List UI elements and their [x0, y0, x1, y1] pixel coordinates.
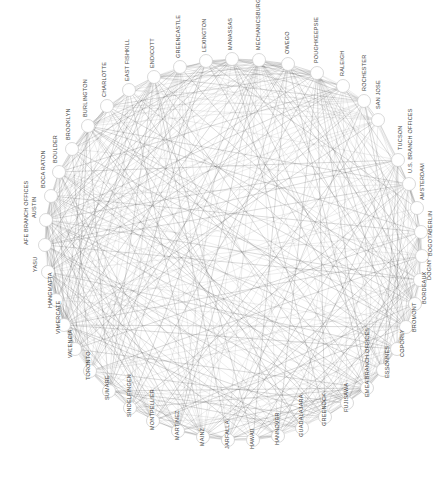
- edge: [45, 245, 278, 436]
- node-label: BURLINGTON: [82, 79, 88, 117]
- node-label: SUMARE: [104, 375, 110, 400]
- node-tucson: [392, 154, 405, 167]
- node-poughkeepsie: [311, 67, 324, 80]
- node-label: GUADALAJARA: [298, 394, 304, 437]
- node-u-s-branch-offices: [403, 178, 416, 191]
- edge: [64, 325, 153, 421]
- node-east-fishkill: [123, 84, 136, 97]
- node-label: SINDELFINGEN: [126, 374, 132, 417]
- edge: [178, 67, 180, 431]
- edge: [259, 60, 278, 436]
- edge: [48, 120, 378, 272]
- node-label: YASU: [32, 257, 38, 272]
- node-mechanicsburg: [253, 54, 266, 67]
- node-label: COPORLY: [399, 329, 405, 357]
- node-label: EAST FISHKILL: [124, 39, 130, 81]
- edge: [203, 60, 259, 437]
- node-label: RALEIGH: [339, 50, 345, 76]
- network-diagram: MECHANICSBURGOWEGOPOUGHKEEPSIERALEIGHROC…: [0, 0, 447, 492]
- node-label: BROOKLYN: [65, 108, 71, 140]
- node-label: MARTINEZ: [174, 410, 180, 440]
- edge: [228, 327, 406, 440]
- edge: [51, 73, 317, 196]
- node-burlington: [82, 120, 95, 133]
- node-label: CHARLOTTE: [101, 62, 107, 97]
- node-label: BROMONT: [411, 302, 417, 332]
- edge: [90, 371, 228, 440]
- node-amsterdam: [411, 202, 424, 215]
- node-raleigh: [337, 80, 350, 93]
- node-label: HAWAII: [249, 428, 255, 449]
- edge: [46, 160, 398, 220]
- node-afe-branch-offices: [39, 239, 52, 252]
- node-label: ESSONNES: [384, 346, 390, 378]
- node-berlin: [415, 226, 428, 239]
- node-boulder: [53, 166, 66, 179]
- node-boca-raton: [45, 190, 58, 203]
- edge: [56, 67, 180, 300]
- edge: [46, 59, 232, 220]
- node-label: POUGHKEEPSIE: [313, 17, 319, 63]
- node-endicott: [148, 71, 161, 84]
- edge: [109, 391, 325, 417]
- node-label: VALENCIA: [67, 329, 73, 358]
- edge: [64, 256, 422, 325]
- node-label: MECHANICSBURG: [255, 0, 261, 50]
- node-label: HANNOVER: [274, 412, 280, 445]
- node-label: VIMERCATE: [55, 300, 61, 334]
- edge: [107, 106, 420, 280]
- node-brooklyn: [66, 143, 79, 156]
- node-lexington: [200, 55, 213, 68]
- node-charlotte: [101, 100, 114, 113]
- edge: [46, 77, 154, 220]
- edge: [90, 371, 302, 428]
- node-label: BOULDER: [52, 135, 58, 163]
- edge: [48, 272, 278, 436]
- node-label: HANGMATTA: [47, 272, 53, 308]
- node-label: TORONTO: [85, 351, 91, 380]
- node-rochester: [358, 95, 371, 108]
- edge: [130, 77, 154, 408]
- edge: [178, 64, 288, 431]
- node-label: AFE BRANCH OFFICES: [23, 180, 29, 245]
- node-label: GREENOCK: [321, 393, 327, 426]
- edge: [48, 59, 232, 272]
- node-san-jose: [372, 114, 385, 127]
- node-label: LEXINGTON: [201, 19, 207, 52]
- edge: [232, 59, 325, 417]
- edge: [288, 64, 415, 304]
- edge: [56, 208, 417, 300]
- edge: [154, 59, 232, 77]
- edge: [325, 370, 383, 417]
- node-greencastle: [174, 61, 187, 74]
- edge: [107, 106, 398, 160]
- node-owego: [282, 58, 295, 71]
- node-label: EMEA BRANCH OFFICES: [364, 328, 370, 397]
- edge: [129, 61, 206, 90]
- edge: [129, 90, 364, 101]
- node-label: MAINZ: [199, 427, 205, 446]
- node-austin: [40, 214, 53, 227]
- edge: [46, 67, 180, 220]
- node-label: SAN JOSE: [375, 80, 381, 109]
- node-label: MONTPELLIER: [149, 389, 155, 430]
- edge: [154, 77, 415, 304]
- node-manassas: [226, 53, 239, 66]
- node-label: BERLIN: [427, 211, 433, 232]
- node-label: MANASSAS: [227, 18, 233, 50]
- edge: [90, 327, 406, 371]
- edge: [206, 61, 378, 120]
- edge: [109, 86, 343, 391]
- edge: [59, 86, 343, 172]
- node-label: AUSTIN: [31, 197, 37, 218]
- edge: [51, 196, 421, 232]
- edge: [180, 67, 278, 436]
- node-label: GREENCASTLE: [175, 15, 181, 58]
- node-label: JARFALLA: [224, 420, 230, 449]
- edge: [46, 60, 259, 220]
- node-label: ROCHESTER: [361, 55, 367, 91]
- node-label: FUJISAWA: [343, 383, 349, 412]
- edge: [88, 126, 409, 184]
- edge: [51, 196, 153, 421]
- edge: [45, 245, 302, 428]
